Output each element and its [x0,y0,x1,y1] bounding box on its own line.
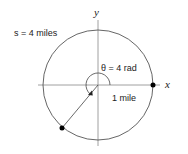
axis-x-label: x [164,78,170,90]
radius-line [62,85,98,128]
start-point [151,83,156,88]
arc-length-label: s = 4 miles [14,28,58,38]
axis-y-label: y [93,6,99,18]
end-point [60,126,65,131]
angle-label: θ = 4 rad [101,63,137,73]
radius-label: 1 mile [112,93,136,103]
unit-circle-diagram: y x s = 4 miles θ = 4 rad 1 mile [0,0,188,154]
